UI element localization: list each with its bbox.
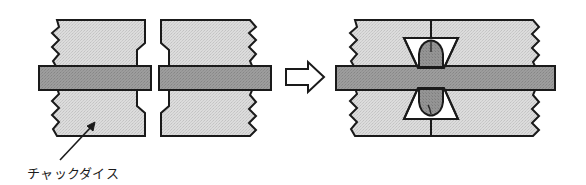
workpiece-rod-left-segment: [39, 66, 151, 90]
workpiece-rod-through: [336, 66, 555, 90]
chuck-dies-label-text: チャックダイス: [27, 166, 119, 181]
forming-process-diagram: チャックダイス: [0, 0, 586, 185]
upper-left-chuck-die: [52, 20, 145, 68]
workpiece-rod-right-segment: [159, 66, 271, 90]
figure-root: チャックダイス: [0, 0, 586, 185]
lower-right-chuck-die: [161, 88, 256, 136]
lower-left-chuck-die: [52, 88, 145, 136]
right-stage-group: [336, 20, 555, 136]
upper-right-chuck-die: [161, 20, 256, 68]
